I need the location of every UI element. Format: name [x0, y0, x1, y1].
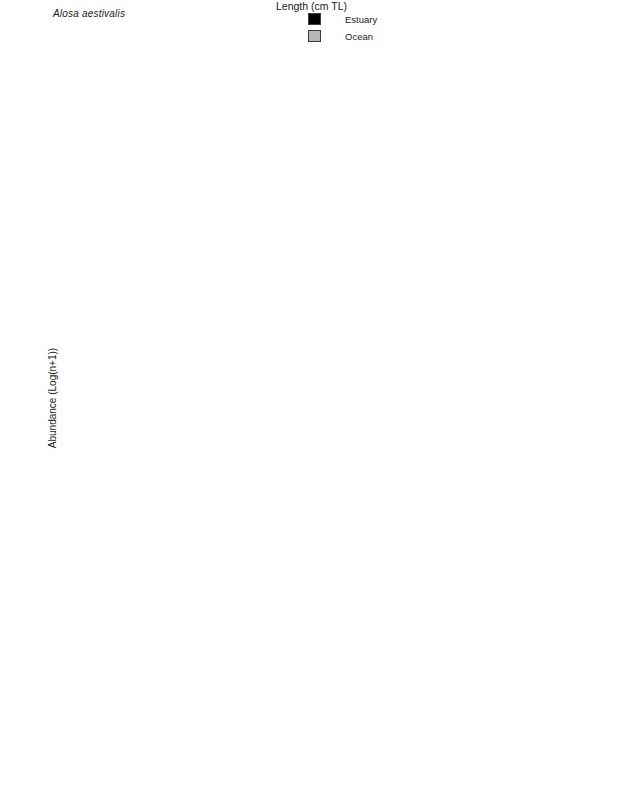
legend-label-ocean: Ocean: [345, 31, 373, 42]
x-axis-label: Length (cm TL): [0, 0, 623, 12]
legend-entry-estuary: Estuary: [308, 12, 377, 26]
legend: Estuary Ocean: [308, 12, 377, 46]
y-axis-label: Abundance (Log(n+1)): [47, 347, 58, 447]
legend-entry-ocean: Ocean: [308, 29, 377, 43]
figure-root: Alosa aestivalis Estuary Ocean Abundance…: [0, 0, 623, 795]
estuary-swatch-icon: [308, 13, 321, 25]
ocean-swatch-icon: [308, 30, 321, 42]
legend-label-estuary: Estuary: [345, 14, 377, 25]
